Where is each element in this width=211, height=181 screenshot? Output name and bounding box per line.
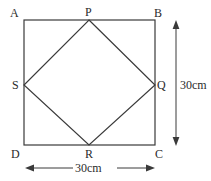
vertical-dimension-label: 30cm [178, 79, 209, 91]
horizontal-arrowhead-left-icon [25, 165, 34, 172]
vertex-label-d: D [11, 148, 20, 160]
vertex-label-a: A [10, 7, 19, 19]
vertex-label-q: Q [157, 79, 166, 91]
vertical-arrowhead-top-icon [173, 20, 180, 29]
vertical-arrowhead-bottom-icon [173, 137, 180, 146]
vertex-label-s: S [12, 79, 19, 91]
geometry-figure: A B C D P Q R S 30cm 30cm [0, 0, 211, 181]
vertex-label-c: C [155, 148, 163, 160]
vertex-label-r: R [85, 148, 93, 160]
inner-square-pqrs [24, 20, 155, 145]
horizontal-dimension-label: 30cm [73, 162, 104, 174]
vertex-label-p: P [85, 6, 92, 18]
horizontal-arrowhead-right-icon [146, 165, 155, 172]
outer-square-abcd [24, 20, 155, 145]
vertex-label-b: B [154, 7, 162, 19]
